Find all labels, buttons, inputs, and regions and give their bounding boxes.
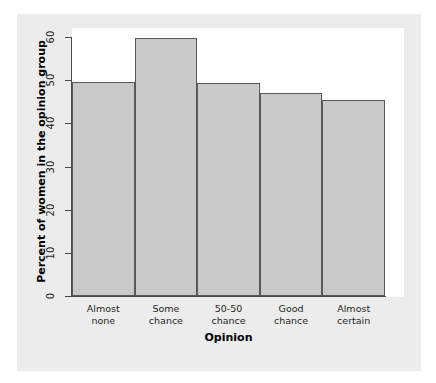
x-tick-label: Goodchance	[260, 303, 323, 327]
y-tick-mark	[65, 123, 71, 124]
x-tick-label-line: chance	[135, 315, 198, 327]
x-tick-label-line: Good	[279, 303, 304, 314]
bar-chart-figure: 0102030405060 AlmostnoneSomechance50-50c…	[0, 0, 436, 383]
x-tick-label-line: chance	[260, 315, 323, 327]
bar	[72, 82, 135, 296]
x-tick-label-line: certain	[322, 315, 385, 327]
x-tick-label: Almostnone	[72, 303, 135, 327]
x-tick-label-line: Almost	[337, 303, 370, 314]
y-tick-mark	[65, 80, 71, 81]
x-tick-label-line: chance	[197, 315, 260, 327]
x-tick-label-line: 50-50	[215, 303, 243, 314]
y-tick-mark	[65, 296, 71, 297]
x-tick-label-line: Some	[152, 303, 179, 314]
y-tick-mark	[65, 210, 71, 211]
x-tick-label-line: Almost	[87, 303, 120, 314]
y-tick-mark	[65, 253, 71, 254]
x-axis-title: Opinion	[71, 331, 386, 344]
bar	[197, 83, 260, 296]
x-axis-line	[71, 296, 386, 297]
bar	[322, 100, 385, 296]
x-tick-label: Almostcertain	[322, 303, 385, 327]
x-tick-label: Somechance	[135, 303, 198, 327]
y-tick-mark	[65, 37, 71, 38]
x-tick-label-line: none	[72, 315, 135, 327]
bar	[135, 38, 198, 296]
x-tick-label: 50-50chance	[197, 303, 260, 327]
y-tick-mark	[65, 167, 71, 168]
y-axis-title: Percent of women in the opinion group	[35, 27, 48, 297]
bar	[260, 93, 323, 296]
